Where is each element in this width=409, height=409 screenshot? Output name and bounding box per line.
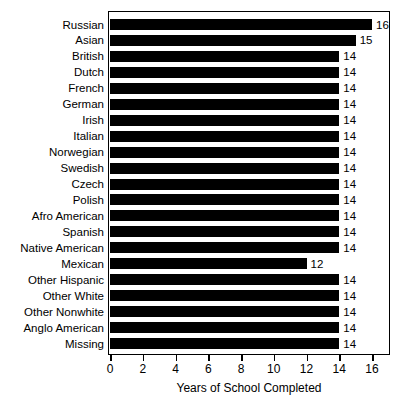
bar xyxy=(110,99,339,110)
category-label: Swedish xyxy=(61,160,104,176)
bar-value-label: 14 xyxy=(343,208,356,224)
category-label: Polish xyxy=(73,192,104,208)
category-label: Norwegian xyxy=(49,144,104,160)
bar-row: Other White14 xyxy=(0,288,409,304)
bar-row: Other Hispanic14 xyxy=(0,272,409,288)
bar-value-label: 14 xyxy=(343,192,356,208)
x-tick xyxy=(176,355,178,361)
bar-value-label: 14 xyxy=(343,320,356,336)
bar-value-label: 14 xyxy=(343,144,356,160)
bar-value-label: 14 xyxy=(343,80,356,96)
bar-row: Dutch14 xyxy=(0,64,409,80)
category-label: Asian xyxy=(75,32,104,48)
x-tick xyxy=(372,355,374,361)
bar-value-label: 14 xyxy=(343,224,356,240)
bar-row: Spanish14 xyxy=(0,224,409,240)
bar-value-label: 14 xyxy=(343,64,356,80)
bar xyxy=(110,35,356,46)
x-tick-label: 14 xyxy=(327,362,351,376)
bar xyxy=(110,306,339,317)
category-label: Other White xyxy=(43,288,104,304)
bar-value-label: 15 xyxy=(360,32,373,48)
x-tick-label: 2 xyxy=(131,362,155,376)
x-tick xyxy=(208,355,210,361)
bar-row: Russian16 xyxy=(0,17,409,33)
bar-value-label: 14 xyxy=(343,112,356,128)
bar-value-label: 14 xyxy=(343,336,356,352)
x-tick-label: 12 xyxy=(295,362,319,376)
bar-row: Irish14 xyxy=(0,112,409,128)
bar xyxy=(110,322,339,333)
category-label: French xyxy=(68,80,104,96)
bar xyxy=(110,274,339,285)
category-label: Irish xyxy=(82,112,104,128)
bar xyxy=(110,163,339,174)
category-label: Missing xyxy=(65,336,104,352)
bar xyxy=(110,194,339,205)
bar-row: Afro American14 xyxy=(0,208,409,224)
bar-value-label: 14 xyxy=(343,272,356,288)
bar-row: French14 xyxy=(0,80,409,96)
bar-value-label: 14 xyxy=(343,160,356,176)
bar-row: Swedish14 xyxy=(0,160,409,176)
x-axis-title: Years of School Completed xyxy=(108,381,390,395)
x-tick xyxy=(274,355,276,361)
bar-row: Norwegian14 xyxy=(0,144,409,160)
x-tick-label: 10 xyxy=(262,362,286,376)
bar-value-label: 12 xyxy=(311,256,324,272)
category-label: Dutch xyxy=(74,64,104,80)
category-label: British xyxy=(72,48,104,64)
bar-row: Anglo American14 xyxy=(0,320,409,336)
x-tick-label: 0 xyxy=(98,362,122,376)
bar xyxy=(110,242,339,253)
bar xyxy=(110,226,339,237)
category-label: Other Hispanic xyxy=(28,272,104,288)
bar-row: Native American14 xyxy=(0,240,409,256)
category-label: Mexican xyxy=(61,256,104,272)
bar-value-label: 14 xyxy=(343,176,356,192)
bar xyxy=(110,338,339,349)
bar-row: German14 xyxy=(0,96,409,112)
category-label: German xyxy=(62,96,104,112)
x-tick xyxy=(241,355,243,361)
bar xyxy=(110,290,339,301)
x-tick-label: 4 xyxy=(164,362,188,376)
bar-value-label: 14 xyxy=(343,128,356,144)
bar xyxy=(110,131,339,142)
x-tick xyxy=(339,355,341,361)
bar-value-label: 14 xyxy=(343,96,356,112)
bar-row: Czech14 xyxy=(0,176,409,192)
category-label: Italian xyxy=(73,128,104,144)
category-label: Other Nonwhite xyxy=(24,304,104,320)
bar-value-label: 16 xyxy=(376,17,389,33)
bar xyxy=(110,258,307,269)
bar-row: Missing14 xyxy=(0,336,409,352)
category-label: Czech xyxy=(71,176,104,192)
bar xyxy=(110,210,339,221)
x-tick-label: 8 xyxy=(229,362,253,376)
x-tick-label: 16 xyxy=(360,362,384,376)
category-label: Native American xyxy=(20,240,104,256)
x-tick xyxy=(143,355,145,361)
bar-row: Italian14 xyxy=(0,128,409,144)
x-axis: 0246810121416 Years of School Completed xyxy=(108,355,390,409)
bar-row: Mexican12 xyxy=(0,256,409,272)
bar xyxy=(110,147,339,158)
bar xyxy=(110,83,339,94)
category-label: Spanish xyxy=(62,224,104,240)
bar-value-label: 14 xyxy=(343,48,356,64)
bar-row: Asian15 xyxy=(0,32,409,48)
bar-value-label: 14 xyxy=(343,240,356,256)
category-label: Anglo American xyxy=(23,320,104,336)
category-label: Afro American xyxy=(32,208,104,224)
category-label: Russian xyxy=(62,17,104,33)
bar-value-label: 14 xyxy=(343,304,356,320)
bar-value-label: 14 xyxy=(343,288,356,304)
x-tick-label: 6 xyxy=(196,362,220,376)
bar xyxy=(110,115,339,126)
bar-row: British14 xyxy=(0,48,409,64)
bar-row: Other Nonwhite14 xyxy=(0,304,409,320)
bar xyxy=(110,179,339,190)
x-tick xyxy=(307,355,309,361)
x-tick xyxy=(110,355,112,361)
